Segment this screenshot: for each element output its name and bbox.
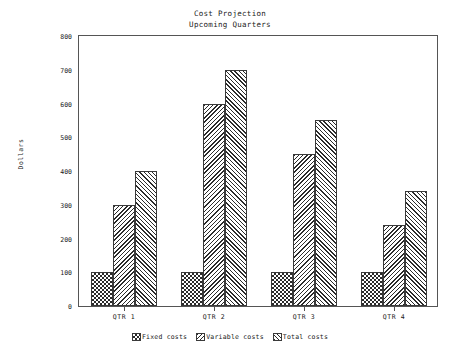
bar-fixed-costs-qtr-1 — [91, 272, 113, 306]
y-axis-tick-label: 600 — [44, 101, 72, 109]
bar-fixed-costs-qtr-2 — [181, 272, 203, 306]
x-axis-tick-mark — [304, 307, 305, 311]
bar-variable-costs-qtr-2 — [203, 104, 225, 307]
bar-total-costs-qtr-2 — [225, 70, 247, 306]
legend-item[interactable]: Variable costs — [196, 333, 264, 341]
y-axis-tick-label: 300 — [44, 202, 72, 210]
chart-title: Cost Projection — [0, 8, 460, 19]
bar-group — [91, 36, 157, 306]
legend-label: Total costs — [283, 333, 328, 341]
legend-swatch-icon — [196, 333, 205, 341]
x-axis-tick-label: QTR 2 — [184, 313, 244, 321]
legend-label: Fixed costs — [142, 333, 187, 341]
bars-layer — [79, 36, 437, 306]
x-axis-tick-mark — [214, 307, 215, 311]
bar-variable-costs-qtr-3 — [293, 154, 315, 306]
bar-chart: Cost Projection Upcoming Quarters Dollar… — [0, 0, 460, 357]
bar-group — [271, 36, 337, 306]
chart-title-block: Cost Projection Upcoming Quarters — [0, 8, 460, 30]
x-axis-tick-mark — [124, 307, 125, 311]
bar-group — [181, 36, 247, 306]
legend-label: Variable costs — [206, 333, 264, 341]
y-axis-tick-label: 800 — [44, 33, 72, 41]
bar-variable-costs-qtr-1 — [113, 205, 135, 306]
x-axis-tick-label: QTR 3 — [274, 313, 334, 321]
bar-variable-costs-qtr-4 — [383, 225, 405, 306]
bar-total-costs-qtr-1 — [135, 171, 157, 306]
bar-fixed-costs-qtr-4 — [361, 272, 383, 306]
x-axis-tick-label: QTR 1 — [94, 313, 154, 321]
y-axis-tick-label: 400 — [44, 168, 72, 176]
y-axis-tick-label: 500 — [44, 134, 72, 142]
chart-legend: Fixed costsVariable costsTotal costs — [0, 333, 460, 341]
bar-total-costs-qtr-4 — [405, 191, 427, 306]
y-axis-title: Dollars — [17, 124, 25, 184]
chart-subtitle: Upcoming Quarters — [0, 19, 460, 30]
legend-item[interactable]: Fixed costs — [132, 333, 187, 341]
legend-swatch-icon — [273, 333, 282, 341]
x-axis-tick-label: QTR 4 — [364, 313, 424, 321]
x-axis-tick-mark — [394, 307, 395, 311]
y-axis-tick-label: 200 — [44, 236, 72, 244]
bar-total-costs-qtr-3 — [315, 120, 337, 306]
y-axis-tick-label: 700 — [44, 67, 72, 75]
bar-fixed-costs-qtr-3 — [271, 272, 293, 306]
legend-swatch-icon — [132, 333, 141, 341]
y-axis-tick-label: 100 — [44, 269, 72, 277]
y-axis-tick-label: 0 — [44, 303, 72, 311]
bar-group — [361, 36, 427, 306]
legend-item[interactable]: Total costs — [273, 333, 328, 341]
